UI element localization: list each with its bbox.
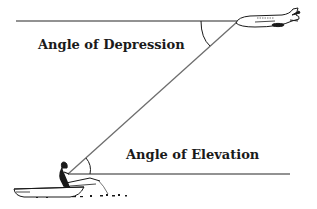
person-in-boat-icon xyxy=(14,162,127,198)
angle-diagram xyxy=(0,0,317,209)
elevation-angle-arc xyxy=(86,158,91,174)
depression-angle-arc xyxy=(201,21,210,46)
angle-of-elevation-label: Angle of Elevation xyxy=(126,147,259,162)
angle-of-depression-label: Angle of Depression xyxy=(38,37,185,52)
airplane-icon xyxy=(236,8,300,27)
